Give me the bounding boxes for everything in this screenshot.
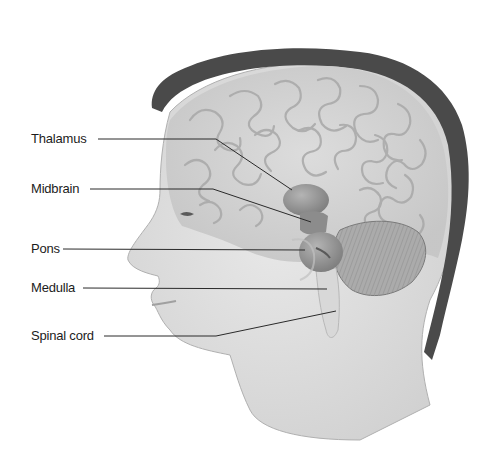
label-midbrain: Midbrain	[31, 181, 79, 196]
pons-structure	[299, 232, 343, 272]
label-pons: Pons	[31, 241, 60, 256]
label-thalamus: Thalamus	[31, 131, 86, 146]
midbrain-structure	[300, 211, 328, 235]
label-medulla: Medulla	[31, 280, 75, 295]
head-illustration	[0, 0, 503, 468]
label-spinal-cord: Spinal cord	[31, 328, 94, 343]
brain-anatomy-diagram: Thalamus Midbrain Pons Medulla Spinal co…	[0, 0, 503, 468]
